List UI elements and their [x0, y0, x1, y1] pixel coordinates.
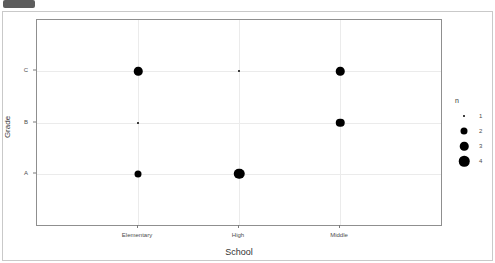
legend-key-dot [460, 142, 469, 151]
x-tick-label: Middle [330, 232, 348, 238]
y-tick-label: C [24, 67, 28, 73]
legend-label: 4 [479, 158, 482, 164]
y-axis-title: Grade [3, 116, 12, 138]
y-tick-mark [33, 172, 36, 173]
legend-item: 2 [453, 124, 495, 138]
x-tick-mark [339, 225, 340, 228]
legend-title: n [455, 97, 459, 104]
top-left-badge[interactable] [3, 0, 35, 8]
x-axis-title: School [225, 247, 253, 257]
legend-key-dot [463, 115, 465, 117]
legend-item: 1 [453, 109, 495, 123]
plot-panel [36, 19, 442, 226]
legend-label: 2 [479, 128, 482, 134]
x-tick-label: Elementary [122, 232, 152, 238]
legend-item: 4 [453, 154, 495, 168]
y-tick-label: A [24, 170, 28, 176]
y-tick-label: B [24, 119, 28, 125]
legend-label: 3 [479, 143, 482, 149]
data-point [336, 67, 345, 76]
x-tick-mark [238, 225, 239, 228]
screenshot-root: Grade School n 1234 ABCElementaryHighMid… [0, 0, 495, 263]
data-point [234, 169, 245, 180]
legend-key-dot [461, 128, 468, 135]
data-point [135, 170, 142, 177]
x-tick-mark [137, 225, 138, 228]
data-point [134, 67, 143, 76]
figure-frame: Grade School n 1234 ABCElementaryHighMid… [2, 11, 493, 261]
legend-item: 3 [453, 139, 495, 153]
legend-key-dot [459, 156, 470, 167]
data-point [336, 118, 345, 127]
plot-area [37, 20, 441, 225]
x-tick-label: High [232, 232, 244, 238]
y-tick-mark [33, 121, 36, 122]
data-point [238, 70, 240, 72]
gridline-vertical [239, 20, 240, 225]
legend-label: 1 [479, 113, 482, 119]
y-tick-mark [33, 70, 36, 71]
data-point [137, 122, 139, 124]
